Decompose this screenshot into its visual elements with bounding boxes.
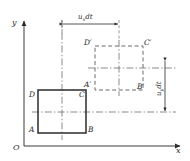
extension-line-group	[62, 20, 119, 40]
horizontal-dimension-label: uxdt	[78, 14, 93, 22]
y-axis-label: y	[12, 19, 17, 27]
vertex-label-c: C	[79, 91, 85, 99]
origin-label: O	[13, 144, 20, 152]
centerline-group	[32, 20, 176, 140]
vertex-label-d: D	[29, 91, 35, 99]
vertex-label-a-prime: A′	[84, 81, 91, 89]
dim-differential-x: dt	[85, 13, 92, 21]
dim-symbol-uy: u	[155, 91, 163, 96]
vertex-label-c-prime: C′	[144, 39, 151, 47]
figure-canvas: y x O A B C D A′ B′ C′ D′ uxdt uydt	[0, 0, 190, 161]
vertex-label-a: A	[29, 126, 34, 134]
dim-subscript-y: y	[158, 89, 164, 92]
vertex-label-d-prime: D′	[84, 39, 92, 47]
vertical-dimension-label: uydt	[156, 81, 164, 96]
dim-differential-y: dt	[155, 81, 163, 88]
vertex-label-b-prime: B′	[137, 83, 144, 91]
x-axis-label: x	[176, 147, 181, 155]
vertex-label-b: B	[88, 126, 94, 134]
